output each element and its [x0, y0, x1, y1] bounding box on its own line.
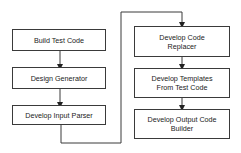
node-build-test-code: Build Test Code [12, 29, 106, 51]
node-label: Develop Output Code Builder [147, 115, 216, 133]
node-design-generator: Design Generator [12, 67, 106, 89]
node-develop-code-replacer: Develop Code Replacer [134, 26, 230, 57]
node-develop-templates: Develop Templates From Test Code [134, 68, 230, 98]
node-label: Design Generator [31, 74, 88, 83]
node-label: Build Test Code [34, 36, 84, 45]
node-develop-output-code-builder: Develop Output Code Builder [134, 109, 230, 139]
node-develop-input-parser: Develop Input Parser [12, 105, 106, 125]
node-label: Develop Input Parser [25, 111, 93, 120]
node-label: Develop Code Replacer [159, 33, 205, 51]
node-label: Develop Templates From Test Code [152, 74, 213, 92]
